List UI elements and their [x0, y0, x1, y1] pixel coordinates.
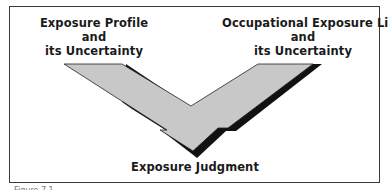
label-line: and: [222, 30, 384, 44]
label-line: Exposure Profile: [28, 16, 160, 30]
label-line: its Uncertainty: [222, 44, 384, 58]
label-line: and: [28, 30, 160, 44]
exposure-profile-label: Exposure Profile and its Uncertainty: [28, 16, 160, 58]
label-line: Occupational Exposure Limit: [222, 16, 384, 30]
label-line: its Uncertainty: [28, 44, 160, 58]
oel-label: Occupational Exposure Limit and its Unce…: [222, 16, 384, 58]
exposure-judgment-label: Exposure Judgment: [120, 160, 270, 174]
figure-caption: Figure 7.1 ...: [14, 186, 64, 190]
arrow-body: [64, 64, 313, 151]
